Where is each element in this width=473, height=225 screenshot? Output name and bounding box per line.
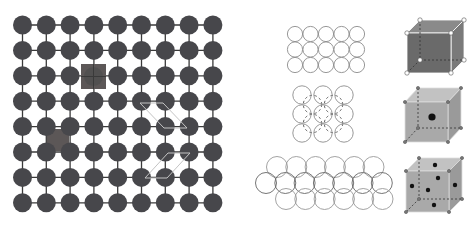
corner-atom [447, 169, 450, 172]
interior-atom [433, 163, 437, 167]
close-packed-atom [256, 173, 277, 194]
close-packed-atom [305, 157, 326, 178]
atom [13, 66, 32, 85]
close-packed-atom [286, 157, 307, 178]
corner-atom [449, 71, 453, 75]
atom [37, 92, 56, 111]
corner-atom [403, 100, 406, 103]
atom [84, 16, 103, 35]
close-packed-atom [314, 189, 335, 210]
atom [180, 143, 199, 162]
atom [132, 193, 151, 212]
atom [84, 92, 103, 111]
corner-atom [447, 210, 450, 213]
packing-atom [349, 26, 364, 41]
atom [180, 193, 199, 212]
atom [108, 16, 127, 35]
packing-atom [287, 57, 302, 72]
packing-atom [303, 26, 318, 41]
corner-atom [417, 197, 420, 200]
corner-atom [446, 140, 449, 143]
packing-atom [318, 57, 333, 72]
atom [13, 41, 32, 60]
atom [156, 16, 175, 35]
atom [180, 92, 199, 111]
close-packed-layers [256, 157, 394, 210]
atom [61, 66, 80, 85]
corner-atom [418, 18, 422, 22]
bcc-packing-layer [293, 86, 353, 142]
corner-atom [405, 31, 409, 35]
cube-front-face [405, 102, 448, 142]
atom [84, 41, 103, 60]
atom [180, 41, 199, 60]
close-packed-atom [267, 157, 288, 178]
atom [37, 41, 56, 60]
atom [132, 117, 151, 136]
atom [156, 117, 175, 136]
packing-atom [349, 57, 364, 72]
atom [37, 66, 56, 85]
atom [132, 143, 151, 162]
interior-atom [436, 176, 440, 180]
atom [180, 117, 199, 136]
packing-atom [293, 105, 311, 123]
atom [108, 41, 127, 60]
atom [13, 143, 32, 162]
corner-atom [418, 58, 422, 62]
atom [37, 143, 56, 162]
atom [180, 16, 199, 35]
packing-atom [334, 57, 349, 72]
atom [180, 66, 199, 85]
interior-atom [410, 184, 414, 188]
unit-cells [403, 18, 466, 214]
square-packing-layer [287, 26, 364, 72]
close-packed-atom [353, 189, 374, 210]
atom [84, 117, 103, 136]
packing-atom [314, 105, 332, 123]
atom [61, 143, 80, 162]
body-centered-cubic-unit-cell [403, 86, 462, 143]
corner-atom [416, 126, 419, 129]
packing-atom [314, 86, 332, 104]
corner-atom [404, 169, 407, 172]
atom [180, 168, 199, 187]
corner-atom [459, 86, 462, 89]
corner-atom [462, 58, 466, 62]
corner-atom [460, 197, 463, 200]
atom [203, 92, 222, 111]
atom [156, 41, 175, 60]
atom [108, 92, 127, 111]
packing-atom [334, 42, 349, 57]
dashed-layer-atom [324, 95, 342, 113]
corner-atom [460, 156, 463, 159]
atom [61, 16, 80, 35]
atom [37, 117, 56, 136]
corner-atom [459, 126, 462, 129]
atom [37, 168, 56, 187]
atom [156, 168, 175, 187]
atom [61, 168, 80, 187]
corner-atom [446, 100, 449, 103]
crystal-structure-diagram [0, 0, 473, 225]
packing-atom [287, 42, 302, 57]
atom [203, 66, 222, 85]
atom [108, 143, 127, 162]
close-packed-atom [344, 157, 365, 178]
atom [84, 168, 103, 187]
atom [108, 117, 127, 136]
packing-atom [349, 42, 364, 57]
atom [13, 92, 32, 111]
atom [132, 16, 151, 35]
packing-atom [293, 124, 311, 142]
packing-atom [335, 105, 353, 123]
close-packed-atom [333, 189, 354, 210]
atom [156, 143, 175, 162]
atomic-lattice-with-defects [13, 16, 222, 213]
close-packed-atom [324, 157, 345, 178]
close-packed-atom [372, 189, 393, 210]
atom [132, 168, 151, 187]
atom [203, 143, 222, 162]
atom [156, 193, 175, 212]
atom [203, 117, 222, 136]
